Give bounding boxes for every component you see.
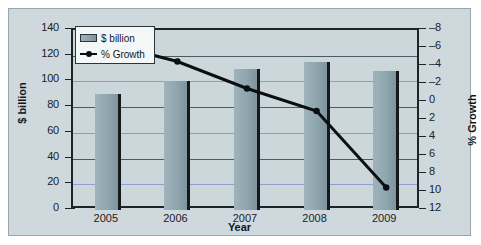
y-axis-right-tick-label: 2 xyxy=(429,111,455,123)
x-axis-tick-label: 2009 xyxy=(359,212,409,224)
y-axis-left-tick-label: 60 xyxy=(15,124,59,136)
y-axis-left-tick-label: 80 xyxy=(15,98,59,110)
y-axis-right-tick-label: 4 xyxy=(429,129,455,141)
y-axis-right-tick-label: 8 xyxy=(429,165,455,177)
y-axis-right-tick-label: –2 xyxy=(429,75,455,87)
data-point-marker xyxy=(313,108,319,114)
growth-line xyxy=(108,44,386,188)
y-axis-right-tick xyxy=(419,28,426,29)
y-axis-left-tick-label: 100 xyxy=(15,72,59,84)
legend-item-line: % Growth xyxy=(80,46,150,62)
line-marker-icon xyxy=(80,50,97,58)
bar-swatch-icon xyxy=(80,34,97,42)
y-axis-right-tick-label: 6 xyxy=(429,147,455,159)
y-axis-right-tick-label: 10 xyxy=(429,183,455,195)
y-axis-left-tick-label: 0 xyxy=(15,201,59,213)
chart-figure: $ billion % Growth Year 0204060801001201… xyxy=(8,8,471,236)
y-axis-right-tick-label: 0 xyxy=(429,93,455,105)
y-axis-right-tick-label: –6 xyxy=(429,39,455,51)
data-point-marker xyxy=(383,184,389,190)
x-axis-tick-label: 2007 xyxy=(220,212,270,224)
x-axis-tick-label: 2008 xyxy=(290,212,340,224)
y-axis-left-tick-label: 140 xyxy=(15,21,59,33)
y-axis-right-tick-label: –8 xyxy=(429,21,455,33)
y-axis-left-tick-label: 20 xyxy=(15,175,59,187)
y-axis-left-tick-label: 40 xyxy=(15,150,59,162)
x-axis-tick-label: 2006 xyxy=(150,212,200,224)
data-point-marker xyxy=(174,58,180,64)
legend-label-bar: $ billion xyxy=(101,33,135,44)
y-axis-right-title: % Growth xyxy=(466,94,478,145)
y-axis-right-tick-label: 12 xyxy=(429,201,455,213)
data-point-marker xyxy=(244,85,250,91)
legend-label-line: % Growth xyxy=(101,49,145,60)
legend-item-bar: $ billion xyxy=(80,30,150,46)
chart-legend: $ billion % Growth xyxy=(75,26,155,64)
y-axis-left-tick-label: 120 xyxy=(15,47,59,59)
x-axis-tick-label: 2005 xyxy=(81,212,131,224)
y-axis-right-tick-label: –4 xyxy=(429,57,455,69)
